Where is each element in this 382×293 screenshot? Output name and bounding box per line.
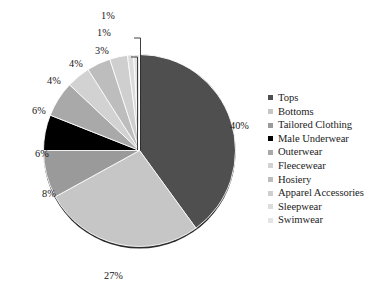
chart-legend: Tops Bottoms Tailored Clothing Male Unde… [268,91,382,227]
legend-swatch-icon [268,109,273,114]
pie-value-label: 27% [104,270,123,281]
legend-swatch-icon [268,136,273,141]
pie-value-label: 4% [47,75,61,86]
legend-item-tops[interactable]: Tops [268,91,382,105]
legend-swatch-icon [268,218,273,223]
legend-item-label: Tops [278,91,298,105]
pie-value-label: 3% [95,45,109,56]
pie-value-label: 1% [97,27,111,38]
legend-swatch-icon [268,150,273,155]
pie-chart: 40%27%8%6%6%4%4%3%1%1% Tops Bottoms Tail… [0,0,382,293]
legend-item-label: Tailored Clothing [278,118,352,132]
legend-item-apparel-accessories[interactable]: Apparel Accessories [268,186,382,200]
legend-item-tailored-clothing[interactable]: Tailored Clothing [268,118,382,132]
legend-item-label: Outerwear [278,145,322,159]
pie-value-label: 40% [230,120,249,131]
pie-value-label: 1% [101,10,115,21]
pie-value-label: 6% [32,105,46,116]
legend-item-outerwear[interactable]: Outerwear [268,145,382,159]
legend-item-swimwear[interactable]: Swimwear [268,213,382,227]
legend-item-male-underwear[interactable]: Male Underwear [268,132,382,146]
pie-value-label: 4% [69,58,83,69]
legend-item-label: Fleecewear [278,159,326,173]
legend-swatch-icon [268,95,273,100]
legend-swatch-icon [268,123,273,128]
legend-item-label: Apparel Accessories [278,186,364,200]
pie-value-label: 8% [42,188,56,199]
legend-item-label: Swimwear [278,213,323,227]
legend-item-label: Male Underwear [278,132,349,146]
pie-value-label: 6% [35,148,49,159]
legend-item-sleepwear[interactable]: Sleepwear [268,200,382,214]
legend-item-fleecewear[interactable]: Fleecewear [268,159,382,173]
legend-item-label: Bottoms [278,105,314,119]
pie-slices [44,55,236,247]
legend-swatch-icon [268,204,273,209]
legend-swatch-icon [268,163,273,168]
legend-item-hosiery[interactable]: Hosiery [268,173,382,187]
legend-item-label: Hosiery [278,173,311,187]
legend-item-label: Sleepwear [278,200,322,214]
legend-swatch-icon [268,191,273,196]
legend-swatch-icon [268,177,273,182]
legend-item-bottoms[interactable]: Bottoms [268,105,382,119]
